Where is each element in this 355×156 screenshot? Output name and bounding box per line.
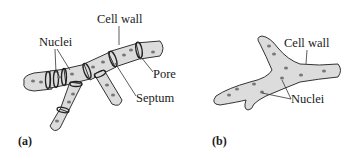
hyphae-diagram: Cell wall Nuclei Pore Septum (a) Cell wa…	[0, 0, 355, 156]
label-nuclei-a: Nuclei	[39, 35, 73, 49]
label-nuclei-b: Nuclei	[291, 92, 325, 106]
panel-a-septate-hypha: Cell wall Nuclei Pore Septum (a)	[18, 12, 176, 148]
leader-line	[55, 49, 56, 73]
hypha-branch-lower-right	[94, 70, 122, 105]
leader-line	[141, 57, 153, 72]
leader-line	[115, 63, 136, 96]
panel-label-a: (a)	[18, 134, 32, 148]
panel-b-coenocytic-hypha: Cell wall Nuclei (b)	[212, 36, 341, 148]
label-pore: Pore	[153, 67, 176, 81]
label-cell-wall-b: Cell wall	[284, 36, 330, 50]
panel-label-b: (b)	[212, 134, 227, 148]
leader-line	[57, 49, 70, 70]
label-septum: Septum	[136, 91, 174, 105]
label-cell-wall-a: Cell wall	[97, 12, 143, 26]
leader-line	[306, 50, 307, 64]
